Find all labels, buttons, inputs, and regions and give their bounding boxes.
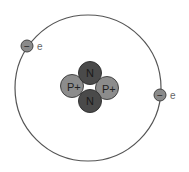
neutron-bottom: N	[79, 90, 102, 113]
electron-left-symbol: −	[24, 41, 30, 52]
electron-right: − e	[154, 89, 176, 101]
nucleus: P+ P+ N N	[61, 62, 119, 113]
neutron-top-label: N	[86, 67, 94, 79]
proton-left-label: P+	[67, 81, 81, 93]
electron-left-label: e	[37, 41, 43, 52]
atom-diagram: P+ P+ N N − e − e	[0, 0, 189, 172]
neutron-top: N	[79, 62, 102, 85]
electron-orbit	[15, 15, 161, 161]
proton-right-label: P+	[102, 83, 116, 95]
electron-right-label: e	[170, 90, 176, 101]
electron-right-symbol: −	[157, 90, 163, 101]
neutron-bottom-label: N	[86, 95, 94, 107]
